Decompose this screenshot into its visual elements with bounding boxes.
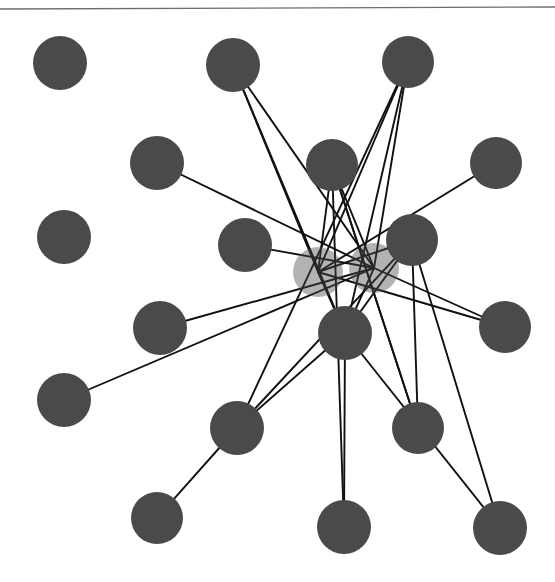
edge-layer <box>64 62 505 528</box>
graph-node[interactable] <box>131 492 183 544</box>
graph-edge <box>412 240 500 528</box>
graph-node[interactable] <box>392 402 444 454</box>
graph-node[interactable] <box>470 137 522 189</box>
graph-node[interactable] <box>206 38 260 92</box>
graph-node[interactable] <box>33 36 87 90</box>
graph-node[interactable] <box>37 210 91 264</box>
graph-edge <box>412 240 418 428</box>
graph-node[interactable] <box>218 218 272 272</box>
graph-node[interactable] <box>318 306 372 360</box>
graph-node[interactable] <box>306 139 358 191</box>
graph-node[interactable] <box>130 136 184 190</box>
graph-node[interactable] <box>473 501 527 555</box>
network-graph-figure <box>0 0 555 582</box>
graph-node[interactable] <box>317 500 371 554</box>
graph-edge <box>344 333 345 527</box>
horizontal-rule <box>0 7 555 9</box>
graph-node[interactable] <box>37 373 91 427</box>
graph-node[interactable] <box>293 247 343 297</box>
node-layer <box>33 36 531 555</box>
graph-node[interactable] <box>349 243 399 293</box>
graph-canvas[interactable] <box>0 0 555 582</box>
graph-node[interactable] <box>479 301 531 353</box>
graph-node[interactable] <box>133 301 187 355</box>
graph-node[interactable] <box>210 401 264 455</box>
graph-node[interactable] <box>382 36 434 88</box>
